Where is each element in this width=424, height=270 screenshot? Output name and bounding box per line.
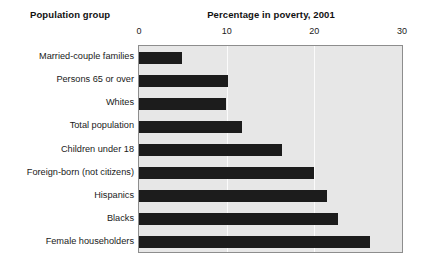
category-label: Persons 65 or over bbox=[0, 74, 134, 85]
bar bbox=[139, 121, 242, 133]
bar bbox=[139, 52, 182, 64]
x-tick-10: 10 bbox=[222, 26, 232, 36]
population-group-header: Population group bbox=[30, 9, 110, 20]
category-label: Blacks bbox=[0, 213, 134, 224]
bar bbox=[139, 190, 327, 202]
x-tick-0: 0 bbox=[136, 26, 141, 36]
category-axis-labels: Married-couple familiesPersons 65 or ove… bbox=[0, 45, 134, 253]
bar bbox=[139, 98, 226, 110]
category-label: Children under 18 bbox=[0, 144, 134, 155]
poverty-bar-chart: Population group Percentage in poverty, … bbox=[0, 0, 424, 270]
category-label: Foreign-born (not citizens) bbox=[0, 167, 134, 178]
category-label: Female householders bbox=[0, 236, 134, 247]
chart-title: Percentage in poverty, 2001 bbox=[139, 9, 403, 20]
bar bbox=[139, 236, 370, 248]
category-label: Total population bbox=[0, 120, 134, 131]
category-label: Hispanics bbox=[0, 190, 134, 201]
bar bbox=[139, 144, 282, 156]
category-label: Married-couple families bbox=[0, 51, 134, 62]
bar bbox=[139, 75, 228, 87]
x-tick-30: 30 bbox=[397, 26, 407, 36]
plot-area bbox=[138, 45, 403, 253]
bar bbox=[139, 167, 314, 179]
x-tick-20: 20 bbox=[309, 26, 319, 36]
x-axis-tick-labels: 0102030 bbox=[0, 26, 424, 40]
bars-layer bbox=[139, 46, 402, 252]
bar bbox=[139, 213, 338, 225]
category-label: Whites bbox=[0, 97, 134, 108]
